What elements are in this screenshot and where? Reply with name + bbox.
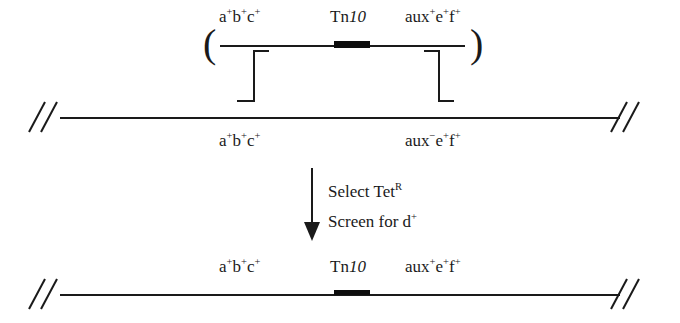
donor-transposon-number: 10	[349, 7, 366, 26]
recipient-chromosome-line	[60, 117, 620, 119]
recipient-left-markers-text: a+b+c+	[219, 131, 260, 150]
recombinant-transposon-number: 10	[349, 257, 366, 276]
transposon-block-icon	[334, 41, 370, 48]
selection-step-line-1: Select TetR	[328, 182, 402, 202]
selection-step-line-2-sup: +	[411, 211, 417, 222]
chromosome-break-icon-recipient-left	[36, 100, 62, 134]
crossover-left-vertical	[253, 50, 255, 102]
donor-open-paren: (	[203, 24, 216, 64]
chromosome-break-icon-recombinant-left	[36, 277, 62, 311]
recombinant-right-markers-label: aux+e+f+	[405, 258, 461, 275]
crossover-right-bottom-foot	[438, 100, 454, 102]
selection-step-line-1-prefix: Select Tet	[328, 182, 395, 201]
transduction-diagram: a+b+c+ Tn10 aux+e+f+ ( ) a+b+c+	[0, 0, 680, 323]
chromosome-break-icon-recombinant-right	[618, 277, 644, 311]
recombinant-left-markers-label: a+b+c+	[219, 258, 260, 275]
crossover-right-vertical	[438, 50, 440, 102]
recombinant-left-markers-text: a+b+c+	[219, 257, 260, 276]
down-arrow-shaft	[311, 168, 313, 226]
chromosome-break-icon-recipient-right	[618, 100, 644, 134]
down-arrow-icon	[304, 222, 320, 241]
selection-step-line-2: Screen for d+	[328, 212, 417, 232]
donor-close-paren: )	[470, 24, 483, 64]
selection-step-line-1-sup: R	[395, 181, 402, 192]
donor-left-markers-text: a+b+c+	[219, 7, 260, 26]
recipient-right-markers-label: aux−e+f+	[405, 132, 461, 149]
transposon-block-icon-recombinant	[334, 290, 370, 295]
donor-right-markers-text: aux+e+f+	[405, 7, 461, 26]
donor-transposon-prefix: Tn	[330, 7, 349, 26]
crossover-bracket-icon-left	[245, 50, 269, 102]
recombinant-right-markers-text: aux+e+f+	[405, 257, 461, 276]
recipient-left-markers-label: a+b+c+	[219, 132, 260, 149]
crossover-left-bottom-foot	[237, 100, 253, 102]
recombinant-transposon-prefix: Tn	[330, 257, 349, 276]
donor-right-markers-label: aux+e+f+	[405, 8, 461, 25]
donor-transposon-label: Tn10	[330, 8, 366, 25]
recipient-right-markers-text: aux−e+f+	[405, 131, 461, 150]
selection-step-line-2-prefix: Screen for d	[328, 212, 411, 231]
recombinant-transposon-label: Tn10	[330, 258, 366, 275]
donor-left-markers-label: a+b+c+	[219, 8, 260, 25]
crossover-bracket-icon-right	[424, 50, 448, 102]
crossover-left-top-foot	[253, 50, 269, 52]
